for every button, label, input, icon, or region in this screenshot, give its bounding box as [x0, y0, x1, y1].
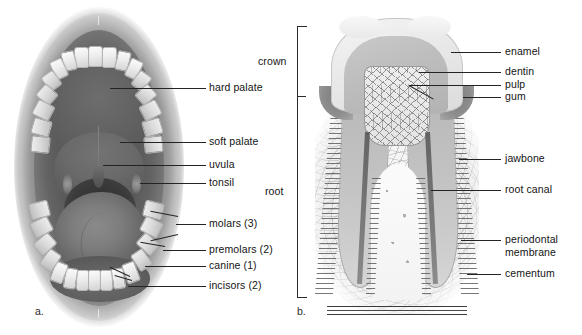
uvula-shape: [93, 166, 104, 188]
leader-pulp: [409, 85, 501, 86]
leader-jawbone: [459, 159, 501, 160]
label-periodontal-membrane-line2: membrane: [505, 247, 556, 259]
panel-b-tooth: crown root: [291, 0, 582, 335]
panel-a-mouth: hard palate soft palate uvula tonsil mol…: [0, 0, 200, 335]
enamel-cusp-right: [407, 16, 451, 38]
label-incisors: incisors (2): [209, 280, 262, 292]
label-crown: crown: [258, 56, 287, 68]
leader-dentin: [419, 72, 501, 73]
label-jawbone: jawbone: [505, 153, 545, 165]
panel-b-id: b.: [297, 305, 306, 317]
leader-canine: [145, 266, 206, 267]
tooth-illustration: [309, 14, 484, 324]
leader-root-canal: [431, 190, 501, 191]
lower-lip-notch: [98, 309, 99, 318]
panel-a-id: a.: [35, 305, 44, 317]
tonsil-left: [63, 174, 72, 194]
crown-root-divider-tick: [297, 96, 306, 97]
mouth-illustration: [14, 6, 184, 328]
label-soft-palate: soft palate: [209, 136, 259, 148]
tooth-lower-incisor: [76, 270, 89, 291]
label-molars: molars (3): [209, 218, 257, 230]
label-canine: canine (1): [209, 260, 257, 272]
apical-nerve-vessel-bundle: [327, 306, 467, 315]
label-tonsil: tonsil: [209, 177, 234, 189]
tonsil-right: [132, 174, 141, 194]
upper-lip-notch: [98, 16, 99, 25]
tooth-upper: [88, 46, 103, 67]
label-pulp: pulp: [505, 79, 525, 91]
label-cementum: cementum: [505, 268, 555, 280]
label-periodontal-membrane-line1: periodontal: [505, 234, 558, 246]
leader-molars: [176, 224, 206, 225]
tooth-upper-molar: [143, 135, 164, 154]
leader-uvula: [103, 165, 206, 166]
label-hard-palate: hard palate: [209, 82, 263, 94]
enamel-cusp-left: [339, 16, 383, 38]
leader-hard-palate: [110, 88, 206, 89]
pulp-chamber: [364, 66, 430, 146]
label-dentin: dentin: [505, 66, 534, 78]
label-enamel: enamel: [505, 46, 540, 58]
leader-periodontal-membrane: [461, 240, 501, 241]
leader-gum: [463, 97, 501, 98]
leader-cementum: [467, 274, 501, 275]
leader-soft-palate: [120, 142, 206, 143]
leader-enamel: [451, 52, 501, 53]
label-gum: gum: [505, 91, 526, 103]
label-uvula: uvula: [209, 159, 235, 171]
crown-root-bracket: [297, 26, 307, 298]
leader-incisors: [128, 286, 206, 287]
label-root: root: [265, 186, 284, 198]
leader-premolars: [163, 250, 206, 251]
label-root-canal: root canal: [505, 184, 552, 196]
anatomical-figure: hard palate soft palate uvula tonsil mol…: [0, 0, 582, 335]
pulp-vessel-network: [365, 67, 429, 145]
palatine-raphe: [98, 126, 99, 170]
leader-tonsil: [140, 183, 206, 184]
label-premolars: premolars (2): [209, 244, 273, 256]
tooth-upper-molar: [30, 135, 51, 154]
